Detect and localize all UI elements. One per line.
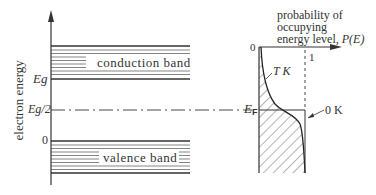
plot-x-origin-label: 0: [250, 42, 256, 53]
fermi-level-label: EF: [244, 102, 257, 117]
plot-title-line3: energy level, P(E): [277, 33, 364, 45]
level-zero-label: 0: [42, 134, 48, 146]
plot-title-text: energy level,: [277, 32, 342, 46]
conduction-band-label: conduction band: [95, 56, 193, 69]
curve-0-kelvin-label: 0 K: [325, 104, 343, 116]
level-eg-label: Eg: [33, 72, 47, 85]
y-axis-label: electron energy: [12, 61, 25, 141]
plot-x-one-label: 1: [309, 52, 315, 63]
valence-band-label: valence band: [101, 151, 179, 164]
fermi-e: E: [244, 101, 252, 116]
plot-title-function: P(E): [342, 32, 365, 46]
fermi-subscript: F: [252, 107, 258, 117]
level-eg-half-label: Eg/2: [28, 103, 51, 115]
curve-t-kelvin-label: T K: [273, 65, 290, 77]
